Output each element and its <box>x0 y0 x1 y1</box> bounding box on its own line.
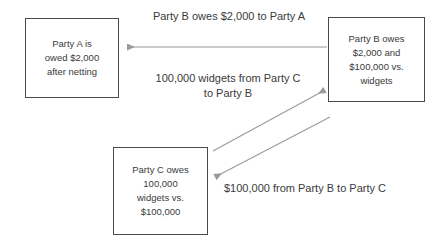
node-party-c-label: Party C owes 100,000 widgets vs. $100,00… <box>127 163 194 219</box>
edge-label-widgets-c-to-b: 100,000 widgets from Party C to Party B <box>128 71 328 101</box>
node-party-b: Party B owes $2,000 and $100,000 vs. wid… <box>328 17 425 102</box>
node-party-a: Party A is owed $2,000 after netting <box>25 18 119 98</box>
netting-diagram: Party A is owed $2,000 after netting Par… <box>0 0 444 240</box>
edge-label-cash-b-to-c: $100,000 from Party B to Party C <box>224 181 430 196</box>
edge-label-b-owes-a: Party B owes $2,000 to Party A <box>131 9 327 24</box>
arrow-cash-b-to-c <box>215 117 330 177</box>
node-party-b-label: Party B owes $2,000 and $100,000 vs. wid… <box>344 32 410 88</box>
node-party-a-label: Party A is owed $2,000 after netting <box>40 37 104 79</box>
node-party-c: Party C owes 100,000 widgets vs. $100,00… <box>113 147 208 235</box>
